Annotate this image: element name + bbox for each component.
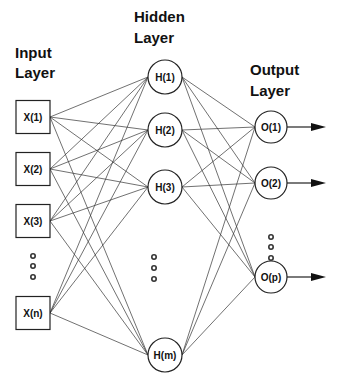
output-ellipsis-dot-2	[269, 245, 273, 249]
hidden-node-h2: H(2)	[148, 113, 182, 147]
node-label: O(1)	[261, 122, 281, 133]
output-arrows	[287, 123, 326, 281]
hidden-layer-label: Hidden Layer	[134, 8, 185, 46]
input-layer-label-line1: Input	[15, 44, 52, 61]
hidden-node-h1: H(1)	[148, 60, 182, 94]
output-layer-nodes: O(1)O(2)O(p)	[255, 111, 287, 293]
edge-hm-op	[182, 277, 255, 355]
node-label: O(2)	[261, 178, 281, 189]
input-node-xn: X(n)	[16, 297, 50, 330]
neural-network-diagram: Input Layer Hidden Layer Output Layer X(…	[0, 0, 340, 392]
node-label: H(m)	[154, 350, 177, 361]
output-arrow-o2	[287, 179, 326, 187]
input-ellipsis-dot-2	[31, 264, 35, 268]
input-node-x3: X(3)	[16, 205, 50, 238]
node-label: X(n)	[23, 308, 42, 319]
input-layer-label-line2: Layer	[15, 64, 55, 81]
output-layer-label-line1: Output	[250, 61, 299, 78]
edge-x1-h1	[50, 77, 148, 117]
edge-x3-h3	[50, 187, 148, 221]
node-label: H(3)	[155, 182, 174, 193]
edge-h3-op	[182, 187, 255, 277]
input-layer-label: Input Layer	[15, 44, 55, 81]
hidden-layer-nodes: H(1)H(2)H(3)H(m)	[148, 60, 182, 372]
edge-hm-o2	[182, 183, 255, 355]
hidden-layer-label-line1: Hidden	[134, 8, 185, 25]
hidden-ellipsis-dot-2	[152, 266, 156, 270]
output-node-o1: O(1)	[255, 111, 287, 143]
ellipsis-dots	[31, 235, 273, 281]
edge-hm-o1	[182, 127, 255, 355]
edge-h2-op	[182, 130, 255, 277]
edge-xn-h2	[50, 130, 148, 313]
input-ellipsis-dot-1	[31, 254, 35, 258]
edge-x3-hm	[50, 221, 148, 355]
arrow-head-icon	[311, 123, 326, 131]
arrow-head-icon	[311, 273, 326, 281]
input-layer-nodes: X(1)X(2)X(3)X(n)	[16, 101, 50, 330]
hidden-ellipsis-dot-1	[152, 255, 156, 259]
arrow-head-icon	[311, 179, 326, 187]
output-layer-label-line2: Layer	[250, 82, 290, 99]
hidden-layer-label-line2: Layer	[134, 29, 174, 46]
input-ellipsis-dot-3	[31, 275, 35, 279]
node-label: X(3)	[24, 216, 43, 227]
edge-xn-h3	[50, 187, 148, 313]
hidden-ellipsis-dot-3	[152, 277, 156, 281]
edge-x3-h2	[50, 130, 148, 221]
node-label: H(1)	[155, 72, 174, 83]
hidden-node-hm: H(m)	[148, 338, 182, 372]
edge-x3-h1	[50, 77, 148, 221]
edge-h1-op	[182, 77, 255, 277]
node-label: O(p)	[261, 272, 282, 283]
input-node-x2: X(2)	[16, 153, 50, 186]
output-node-op: O(p)	[255, 261, 287, 293]
edge-x2-h1	[50, 77, 148, 169]
edge-x1-h2	[50, 117, 148, 130]
input-node-x1: X(1)	[16, 101, 50, 134]
node-label: H(2)	[155, 125, 174, 136]
output-arrow-op	[287, 273, 326, 281]
output-arrow-o1	[287, 123, 326, 131]
edge-h1-o2	[182, 77, 255, 183]
edge-h1-o1	[182, 77, 255, 127]
node-label: X(1)	[24, 112, 43, 123]
node-label: X(2)	[24, 164, 43, 175]
edge-h2-o2	[182, 130, 255, 183]
edge-x2-hm	[50, 169, 148, 355]
hidden-node-h3: H(3)	[148, 170, 182, 204]
output-layer-label: Output Layer	[250, 61, 299, 99]
output-ellipsis-dot-1	[269, 235, 273, 239]
output-ellipsis-dot-3	[269, 256, 273, 260]
output-node-o2: O(2)	[255, 167, 287, 199]
edge-xn-h1	[50, 77, 148, 313]
edge-h3-o2	[182, 183, 255, 187]
edge-x2-h3	[50, 169, 148, 187]
